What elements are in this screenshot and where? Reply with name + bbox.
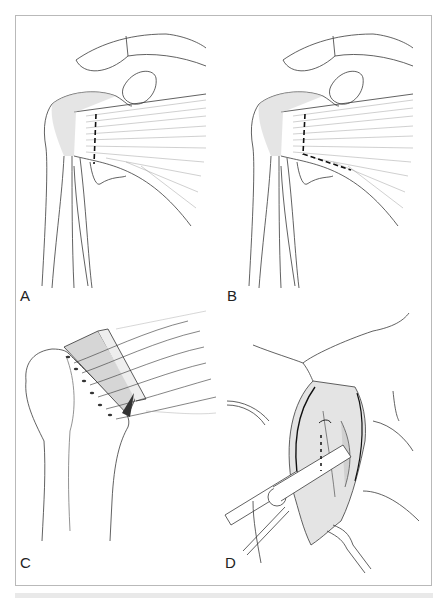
surgical-field-illustration-d bbox=[223, 301, 431, 585]
panel-label-d: D bbox=[225, 555, 236, 570]
panel-c: C bbox=[16, 301, 223, 585]
incision-line-l-shaped bbox=[303, 114, 351, 170]
panel-label-c: C bbox=[20, 555, 31, 570]
panel-b: B bbox=[223, 16, 431, 301]
shoulder-illustration-a bbox=[16, 16, 223, 301]
bottom-divider bbox=[15, 593, 433, 598]
humerus-suture-illustration-c bbox=[16, 301, 223, 585]
incision-line-vertical bbox=[94, 114, 96, 164]
panel-a: A bbox=[16, 16, 223, 301]
shoulder-illustration-b bbox=[223, 16, 431, 301]
panel-d: D bbox=[223, 301, 431, 585]
